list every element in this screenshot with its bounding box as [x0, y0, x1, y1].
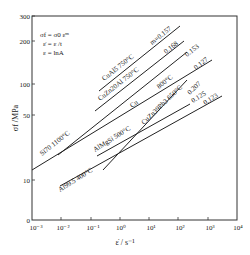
x-tick-1e-2: 10⁻²: [56, 224, 69, 232]
formula-line-1: σf = σ0 ε̇ᵐ: [40, 31, 70, 39]
formula-line-2: ε̇ = ε /t: [43, 40, 62, 48]
y-tick-200: 200: [20, 38, 31, 46]
x-tick-1e1: 10¹: [146, 224, 155, 232]
label-m4: 0.127: [192, 55, 210, 71]
label-m3: 0.153: [183, 42, 201, 58]
x-tick-1e2: 10²: [175, 224, 184, 232]
x-tick-1e-3: 10⁻³: [29, 224, 42, 232]
x-tick-1e3: 10³: [205, 224, 214, 232]
line-almgsi: [97, 104, 190, 156]
label-cu-temp: 800°C: [155, 73, 174, 91]
x-tick-1e-1: 10⁻¹: [86, 224, 99, 232]
label-al995: Al99.5 400°C: [57, 166, 95, 194]
x-axis-title: ε̇ / s⁻¹: [115, 238, 135, 247]
y-tick-300: 300: [20, 13, 31, 21]
y-tick-10: 10: [23, 177, 31, 185]
x-tick-1e0: 10⁰: [116, 224, 126, 232]
x-tick-1e4: 10⁴: [233, 224, 243, 232]
y-tick-50: 50: [23, 112, 31, 120]
label-cu: Cu: [128, 98, 140, 110]
label-si70: Si70 1100°C: [38, 129, 71, 158]
formula-line-3: ε = lnA: [43, 49, 64, 57]
chart: 300 200 100 50 10 0 10⁻³ 10⁻² 10⁻¹ 10⁰ 1…: [0, 0, 250, 255]
y-tick-100: 100: [20, 81, 31, 89]
y-axis-title: σf /MPa: [11, 104, 20, 131]
label-m2: 0.168: [162, 39, 180, 55]
